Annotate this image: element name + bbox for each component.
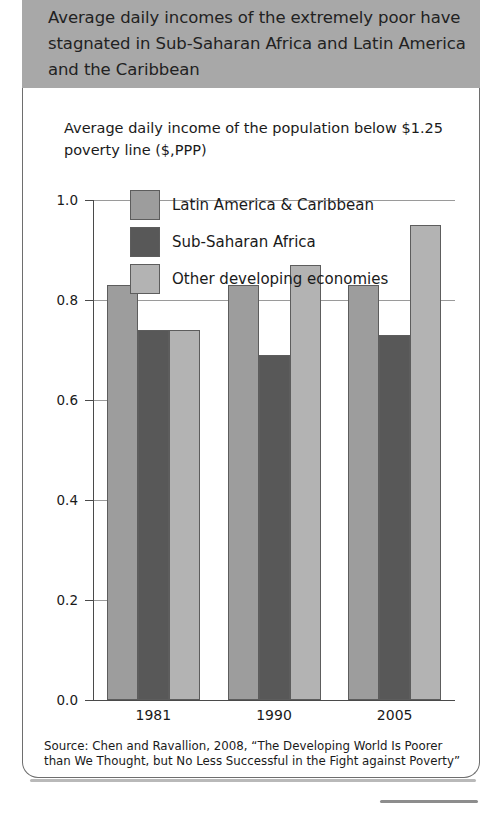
figure-header-banner: Average daily incomes of the extremely p… [22,0,480,88]
legend-item-2: Other developing economies [130,260,388,297]
bar-1981-series-1 [138,330,169,700]
bar-2005-series-2 [410,225,441,700]
legend-swatch-icon-2 [130,264,160,294]
bar-2005-series-1 [379,335,410,700]
legend-swatch-icon-0 [130,190,160,220]
xtick-label-1990: 1990 [214,707,335,723]
chart-legend: Latin America & CaribbeanSub-Saharan Afr… [130,186,388,297]
bar-1990-series-1 [259,355,290,700]
bar-1981-series-0 [107,285,138,700]
bar-1981-series-2 [169,330,200,700]
bar-1990-series-0 [228,285,259,700]
figure-root: Average daily incomes of the extremely p… [0,0,503,815]
legend-label-2: Other developing economies [172,270,388,288]
bottom-page-mark [380,800,478,803]
xtick-label-2005: 2005 [334,707,455,723]
legend-label-0: Latin America & Caribbean [172,196,374,214]
bar-1990-series-2 [290,265,321,700]
card-shadow [30,779,476,782]
chart-subtitle: Average daily income of the population b… [64,117,464,161]
figure-title: Average daily incomes of the extremely p… [48,5,470,83]
source-note: Source: Chen and Ravallion, 2008, “The D… [44,739,464,769]
legend-swatch-icon-1 [130,227,160,257]
xtick-label-1981: 1981 [93,707,214,723]
legend-item-0: Latin America & Caribbean [130,186,388,223]
legend-label-1: Sub-Saharan Africa [172,233,316,251]
bar-2005-series-0 [348,285,379,700]
legend-item-1: Sub-Saharan Africa [130,223,388,260]
